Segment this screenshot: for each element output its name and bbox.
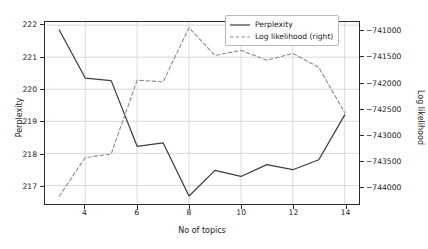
y-axis-left-tick-mark xyxy=(40,154,44,155)
legend-item-log-likelihood: Log likelihood (right) xyxy=(230,31,333,42)
data-series-layer xyxy=(45,22,359,204)
y-axis-right-tick-label: −741500 xyxy=(366,52,426,61)
x-axis-tick-label: 8 xyxy=(187,208,192,217)
x-axis-tick-label: 12 xyxy=(289,208,299,217)
y-axis-right-tick-mark xyxy=(360,109,364,110)
x-axis-tick-label: 6 xyxy=(134,208,139,217)
y-axis-left-tick-label: 218 xyxy=(0,149,37,158)
y-axis-right-tick-label: −741000 xyxy=(366,26,426,35)
x-axis-tick-mark xyxy=(189,205,190,209)
y-axis-left-tick-label: 220 xyxy=(0,85,37,94)
y-axis-right-tick-mark xyxy=(360,83,364,84)
x-axis-tick-mark xyxy=(84,205,85,209)
y-axis-right-tick-label: −742500 xyxy=(366,104,426,113)
x-axis-tick-mark xyxy=(293,205,294,209)
legend-item-perplexity: Perplexity xyxy=(230,19,333,30)
y-axis-left-tick-label: 217 xyxy=(0,182,37,191)
x-axis-title: No of topics xyxy=(44,226,360,235)
y-axis-left-tick-mark xyxy=(40,24,44,25)
x-axis-tick-mark xyxy=(346,205,347,209)
y-axis-right-tick-label: −743000 xyxy=(366,130,426,139)
y-axis-right-tick-mark xyxy=(360,161,364,162)
y-axis-left-tick-label: 221 xyxy=(0,52,37,61)
y-axis-left-tick-label: 222 xyxy=(0,20,37,29)
y-axis-right-tick-mark xyxy=(360,56,364,57)
y-axis-right-tick-label: −742000 xyxy=(366,78,426,87)
chart-legend: Perplexity Log likelihood (right) xyxy=(225,15,339,46)
perplexity-log-likelihood-chart: Perplexity Log likelihood No of topics P… xyxy=(0,0,428,249)
x-axis-tick-label: 4 xyxy=(82,208,87,217)
y-axis-left-tick-mark xyxy=(40,57,44,58)
legend-label-perplexity: Perplexity xyxy=(255,20,293,29)
y-axis-right-tick-mark xyxy=(360,187,364,188)
x-axis-tick-label: 14 xyxy=(341,208,351,217)
y-axis-right-tick-label: −744000 xyxy=(366,182,426,191)
y-axis-right-tick-label: −743500 xyxy=(366,156,426,165)
y-axis-right-tick-mark xyxy=(360,135,364,136)
y-axis-right-tick-mark xyxy=(360,30,364,31)
y-axis-left-tick-mark xyxy=(40,121,44,122)
x-axis-tick-mark xyxy=(137,205,138,209)
plot-area xyxy=(44,21,360,205)
y-axis-left-tick-mark xyxy=(40,186,44,187)
x-axis-tick-label: 10 xyxy=(236,208,246,217)
y-axis-left-tick-label: 219 xyxy=(0,117,37,126)
x-axis-tick-mark xyxy=(241,205,242,209)
legend-swatch-solid xyxy=(230,21,250,29)
y-axis-left-tick-mark xyxy=(40,89,44,90)
legend-label-log-likelihood: Log likelihood (right) xyxy=(255,32,333,41)
legend-swatch-dashed xyxy=(230,33,250,41)
